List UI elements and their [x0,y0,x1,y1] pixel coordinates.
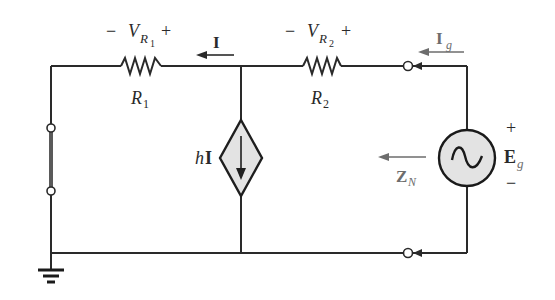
arrow-left-icon [413,62,422,70]
ground-icon [38,270,64,282]
right-top-terminal [404,62,413,71]
eg-sub: g [517,156,524,171]
r1-v-sub: 1 [150,38,155,49]
r1-plus: + [161,21,171,41]
impedance-zn-arrow [378,153,426,161]
r1-label-sub: 1 [143,97,149,111]
r2-minus: − [285,21,295,41]
eg-minus: − [506,173,516,193]
resistor-r1 [121,58,161,74]
dependent-current-source [220,120,262,196]
r1-label: R [130,88,142,108]
resistor-r2 [303,58,341,74]
left-top-terminal [47,124,55,132]
current-ig-label: I [436,29,443,48]
current-ig-sub: g [446,38,452,52]
arrow-left-icon [413,249,422,257]
r2-label: R [310,88,322,108]
current-ig-arrow [0,0,464,56]
eg-plus: + [506,118,516,138]
r1-v-R: R [139,31,148,46]
zn-sub: N [407,175,417,189]
eg-label: E [504,147,516,167]
ac-voltage-source [439,130,495,186]
current-i-label: I [213,33,220,52]
zn-label: Z [396,167,407,186]
current-i-arrow [196,51,234,59]
r2-label-sub: 2 [323,97,329,111]
left-bottom-terminal [47,187,55,195]
dependent-source-var: I [205,148,212,168]
dependent-source-coef: h [195,148,204,168]
circuit-diagram: − V R 1 + R 1 I h I − V R 2 + R 2 I g [0,0,555,300]
r1-minus: − [106,21,116,41]
right-bottom-terminal [404,249,413,258]
left-branch [47,66,55,270]
r2-v-sub: 2 [329,38,334,49]
r2-plus: + [341,21,351,41]
r2-v-R: R [318,31,327,46]
